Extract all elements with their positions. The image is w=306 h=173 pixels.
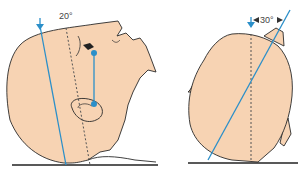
reference-arrow-icon: [247, 22, 255, 28]
axial-head-diagram: [160, 0, 306, 173]
beam-arrow-icon: [36, 24, 44, 30]
landmark-dot-ear: [91, 101, 97, 107]
head-silhouette: [189, 34, 293, 162]
angle-label-30: 30°: [260, 15, 274, 25]
landmark-dot-eye: [91, 50, 97, 56]
lateral-head-panel: 20°: [0, 0, 160, 173]
axial-head-panel: 30°: [160, 0, 306, 173]
head-silhouette: [7, 21, 156, 163]
angle-arrow-right-icon: [277, 17, 283, 23]
lateral-head-diagram: [0, 0, 160, 173]
angle-label-20: 20°: [59, 11, 73, 21]
neck-outline: [88, 157, 156, 162]
